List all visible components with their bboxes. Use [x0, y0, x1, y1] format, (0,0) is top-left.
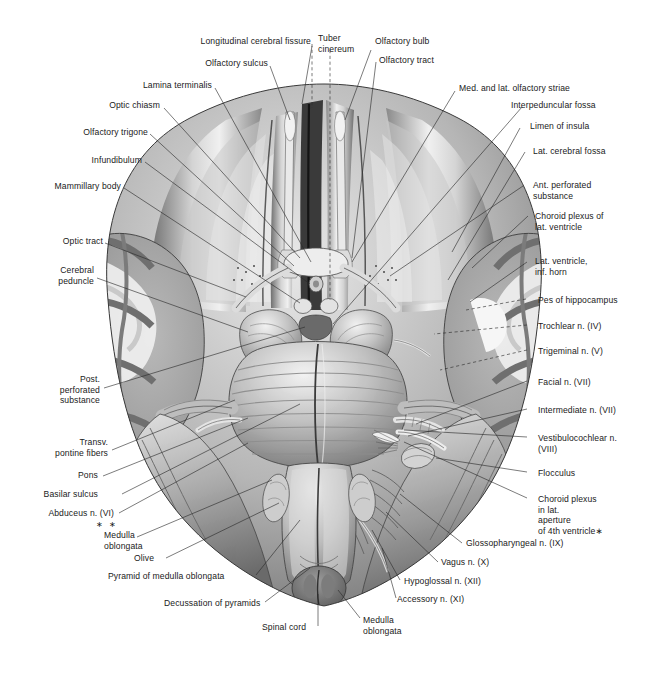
label-pes-of-hippocampus: Pes of hippocampus [538, 295, 646, 306]
label-olive: Olive [134, 553, 174, 564]
label-decussation-of-pyramids: Decussation of pyramids [164, 598, 292, 609]
label-trigeminal-n-v: Trigeminal n. (V) [538, 346, 638, 357]
label-lat-ventricle-inf-horn: Lat. ventricle, inf. horn [535, 256, 627, 277]
label-cerebral-peduncle: Cerebral peduncle [42, 265, 94, 286]
label-med-and-lat-olfactory-striae: Med. and lat. olfactory striae [459, 83, 629, 94]
label-accessory-n-xi: Accessory n. (XI) [397, 594, 497, 605]
label-mammillary-body: Mammillary body [36, 181, 121, 192]
anatomy-plate: Longitudinal cerebral fissure Tuber cine… [0, 0, 647, 674]
label-limen-of-insula: Limen of insula [530, 121, 640, 132]
label-abducens-n-vi: Abduceus n. (VI) [24, 508, 114, 519]
label-olfactory-sulcus: Olfactory sulcus [168, 58, 268, 69]
label-interpeduncular-fossa: Interpeduncular fossa [511, 100, 643, 111]
label-choroid-plexus-of-lat-ventricle: Choroid plexus of lat. ventricle [535, 211, 639, 232]
label-pyramid-of-medulla-oblongata: Pyramid of medulla oblongata [108, 571, 258, 582]
label-trochlear-n-iv: Trochlear n. (IV) [538, 321, 638, 332]
label-facial-n-vii: Facial n. (VII) [538, 377, 634, 388]
label-olfactory-tract: Olfactory tract [379, 55, 459, 66]
label-intermediate-n-vii: Intermediate n. (VII) [538, 405, 646, 416]
label-olfactory-bulb: Olfactory bulb [375, 36, 455, 47]
label-flocculus: Flocculus [538, 468, 618, 479]
label-olfactory-trigone: Olfactory trigone [60, 127, 148, 138]
double-asterisk-mark: ∗ ∗ [96, 520, 118, 529]
label-lat-cerebral-fossa: Lat. cerebral fossa [533, 146, 643, 157]
label-lamina-terminalis: Lamina terminalis [112, 80, 212, 91]
label-post-perforated-substance: Post. perforated substance [46, 374, 100, 406]
label-hypoglossal-n-xii: Hypoglossal n. (XII) [404, 576, 514, 587]
label-infundibulum: Infundibulum [62, 155, 142, 166]
label-tuber-cinereum: Tuber cinereum [318, 33, 364, 54]
label-optic-chiasm: Optic chiasm [80, 100, 160, 111]
label-ant-perforated-substance: Ant. perforated substance [533, 180, 633, 201]
label-glossopharyngeal-n-ix: Glossopharyngeal n. (IX) [466, 538, 606, 549]
label-vagus-n-x: Vagus n. (X) [441, 557, 527, 568]
label-longitudinal-cerebral-fissure: Longitudinal cerebral fissure [193, 36, 311, 47]
label-pons: Pons [58, 470, 98, 481]
label-choroid-plexus-in-lat-aperture: Choroid plexus in lat. aperture of 4th v… [538, 494, 642, 536]
label-spinal-cord: Spinal cord [262, 622, 322, 633]
label-medulla-oblongata-right: Medulla oblongata [363, 615, 423, 636]
label-transv-pontine-fibers: Transv. pontine fibers [40, 437, 108, 458]
label-medulla-oblongata-left: Medulla oblongata [104, 530, 164, 551]
label-vestibulocochlear-n-viii: Vestibulocochlear n. (VIII) [538, 433, 644, 454]
label-optic-tract: Optic tract [48, 236, 103, 247]
label-basilar-sulcus: Basilar sulcus [34, 489, 98, 500]
